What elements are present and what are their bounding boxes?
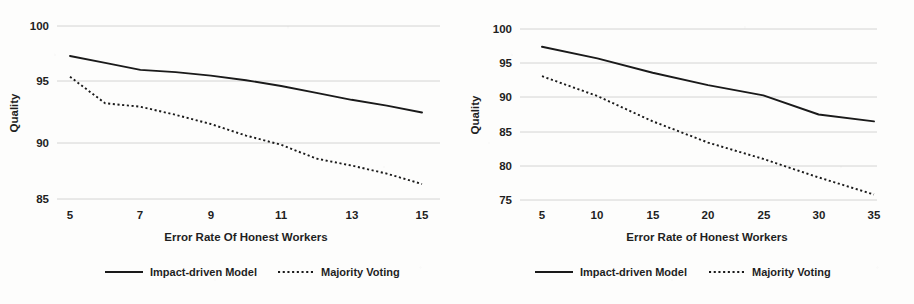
series-line-impact-driven-model [542,47,874,122]
x-tick-label: 11 [275,209,288,221]
x-tick-label: 15 [647,209,660,221]
x-tick-label: 30 [813,209,826,221]
legend-label-majority-voting: Majority Voting [752,266,831,278]
x-tick-label: 10 [591,209,604,221]
figure-container: 100 95 90 85 Quality 5 7 9 11 13 15 Erro… [0,0,914,304]
y-tick-label: 75 [499,194,512,206]
x-tick-label: 35 [868,209,881,221]
x-tick-label: 13 [346,209,359,221]
legend-left: Impact-driven Model Majority Voting [105,266,400,278]
legend-label-majority-voting: Majority Voting [321,266,400,278]
x-axis-ticks-left: 5 7 9 11 13 15 [67,209,429,221]
y-axis-ticks-left: 100 95 90 85 [30,20,50,205]
x-tick-label: 5 [539,209,546,221]
chart-panel-left: 100 95 90 85 Quality 5 7 9 11 13 15 Erro… [0,0,457,304]
series-line-majority-voting [70,77,422,184]
series-group-left [70,56,422,184]
y-axis-title-left: Quality [8,93,20,133]
y-tick-label: 95 [36,75,49,87]
y-tick-label: 90 [499,91,512,103]
x-tick-label: 9 [208,209,214,221]
series-line-majority-voting [542,76,874,194]
chart-svg-left: 100 95 90 85 Quality 5 7 9 11 13 15 Erro… [0,0,457,304]
y-tick-label: 90 [36,137,49,149]
x-axis-title-left: Error Rate Of Honest Workers [164,231,327,243]
series-line-impact-driven-model [70,56,422,113]
legend-right: Impact-driven Model Majority Voting [535,266,831,278]
x-tick-label: 15 [416,209,429,221]
x-axis-ticks-right: 5 10 15 20 25 30 35 [539,209,881,221]
x-tick-label: 7 [137,209,143,221]
y-axis-title-right: Quality [469,95,481,135]
chart-svg-right: 100 95 90 85 80 75 Quality 5 10 15 20 25… [457,0,914,304]
y-tick-label: 100 [30,20,49,32]
y-tick-label: 95 [499,57,512,69]
y-tick-label: 80 [499,160,512,172]
y-tick-label: 85 [36,193,49,205]
y-axis-ticks-right: 100 95 90 85 80 75 [493,23,513,206]
legend-label-impact-driven-model: Impact-driven Model [580,266,687,278]
chart-panel-right: 100 95 90 85 80 75 Quality 5 10 15 20 25… [457,0,914,304]
legend-label-impact-driven-model: Impact-driven Model [150,266,257,278]
x-tick-label: 25 [758,209,771,221]
series-group-right [542,47,874,195]
y-tick-label: 100 [493,23,512,35]
x-tick-label: 5 [67,209,74,221]
x-tick-label: 20 [702,209,715,221]
y-tick-label: 85 [499,126,512,138]
x-axis-title-right: Error Rate of Honest Workers [626,231,787,243]
